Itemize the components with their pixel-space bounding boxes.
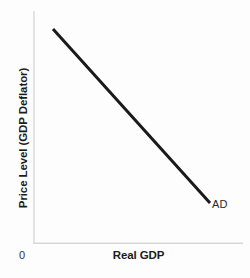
aggregate-demand-curve <box>53 29 210 203</box>
x-axis-label: Real GDP <box>34 249 243 261</box>
aggregate-demand-chart: Price Level (GDP Deflator) Real GDP 0 AD <box>0 0 250 278</box>
chart-canvas <box>0 0 250 278</box>
y-axis-label: Price Level (GDP Deflator) <box>15 14 31 262</box>
origin-label: 0 <box>19 249 25 261</box>
ad-curve-label: AD <box>212 198 228 210</box>
